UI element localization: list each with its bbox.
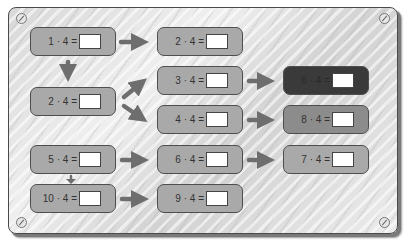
arrow-up-right-icon <box>124 84 140 97</box>
arrow-down-right-icon <box>124 106 140 117</box>
arrows-layer <box>0 0 408 244</box>
